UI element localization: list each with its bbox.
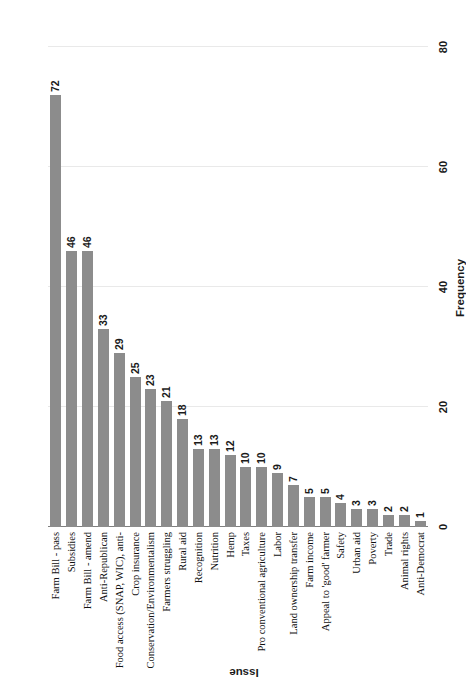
- category-tick-label: Anti-Republican: [98, 532, 109, 602]
- category-tick-label: Appeal to 'good' farmer: [320, 532, 331, 631]
- bar-value-label: 33: [98, 314, 109, 326]
- bar-value-label: 3: [367, 500, 378, 506]
- category-tick-label: Hemp: [225, 532, 236, 558]
- bar-value-label: 23: [145, 374, 156, 386]
- bar: [225, 455, 236, 527]
- bar-value-label: 25: [130, 362, 141, 374]
- bar: [50, 95, 61, 527]
- bar: [415, 521, 426, 527]
- category-tick-label: Farm Bill - pass: [50, 532, 61, 599]
- bar-value-label: 5: [320, 488, 331, 494]
- value-tick-label: 80: [437, 41, 449, 53]
- category-tick-label: Farm income: [304, 532, 315, 588]
- category-tick-label: Recognition: [193, 532, 204, 583]
- category-tick-label: Animal rights: [399, 532, 410, 590]
- category-tick-label: Anti-Democrat: [415, 532, 426, 596]
- bar: [351, 509, 362, 527]
- bar-item: 13: [193, 434, 204, 527]
- category-tick-label: Food access (SNAP, WIC), anti-: [114, 532, 125, 668]
- bar-item: 18: [177, 404, 188, 527]
- category-tick-label: Urban aid: [351, 532, 362, 574]
- bar-item: 21: [161, 386, 172, 527]
- bar-value-label: 18: [177, 404, 188, 416]
- value-tick-label: 40: [437, 281, 449, 293]
- category-tick-label: Crop insurance: [130, 532, 141, 596]
- bar-item: 1: [415, 512, 426, 527]
- bar-item: 13: [209, 434, 220, 527]
- bar-item: 9: [272, 464, 283, 527]
- bar-item: 46: [82, 236, 93, 527]
- bar-value-label: 46: [82, 236, 93, 248]
- category-tick-label: Rural aid: [177, 532, 188, 571]
- bar-item: 5: [304, 488, 315, 527]
- bar: [66, 251, 77, 527]
- category-tick-label: Trade: [383, 532, 394, 556]
- bar-item: 2: [383, 506, 394, 527]
- bar-value-label: 2: [383, 506, 394, 512]
- bar-value-label: 46: [66, 236, 77, 248]
- bar: [161, 401, 172, 527]
- bar: [145, 389, 156, 527]
- bar-item: 12: [225, 440, 236, 527]
- bar-value-label: 21: [161, 386, 172, 398]
- bar: [256, 467, 267, 527]
- bar-value-label: 10: [240, 452, 251, 464]
- bar: [383, 515, 394, 527]
- category-tick-label: Poverty: [367, 532, 378, 565]
- bar-value-label: 9: [272, 464, 283, 470]
- bar-value-label: 7: [288, 476, 299, 482]
- bar: [399, 515, 410, 527]
- bar-item: 5: [320, 488, 331, 527]
- value-tick-label: 60: [437, 161, 449, 173]
- gridline: [48, 46, 428, 47]
- bar: [335, 503, 346, 527]
- bar-item: 3: [351, 500, 362, 527]
- bar: [177, 419, 188, 527]
- bar: [193, 449, 204, 527]
- bar-value-label: 3: [351, 500, 362, 506]
- bar-item: 10: [256, 452, 267, 527]
- bar: [272, 473, 283, 527]
- bar-item: 4: [335, 494, 346, 527]
- bar-item: 33: [98, 314, 109, 527]
- category-tick-label: Land ownership transfer: [288, 532, 299, 635]
- category-tick-label: Subsidies: [66, 532, 77, 572]
- bar: [98, 329, 109, 527]
- gridline: [48, 166, 428, 167]
- gridline: [48, 286, 428, 287]
- bar-value-label: 13: [193, 434, 204, 446]
- bar-value-label: 2: [399, 506, 410, 512]
- bar: [367, 509, 378, 527]
- value-axis-title: Frequency: [454, 259, 466, 317]
- bar: [288, 485, 299, 527]
- bar: [320, 497, 331, 527]
- bar-value-label: 4: [335, 494, 346, 500]
- bar-item: 23: [145, 374, 156, 527]
- bar-item: 2: [399, 506, 410, 527]
- value-tick-label: 20: [437, 401, 449, 413]
- bar-item: 46: [66, 236, 77, 527]
- bar-item: 3: [367, 500, 378, 527]
- bar-value-label: 10: [256, 452, 267, 464]
- category-tick-label: Conservation/Environmentalism: [145, 532, 156, 668]
- category-axis-title: Issue: [229, 667, 258, 679]
- category-tick-label: Pro conventional agriculture: [256, 532, 267, 652]
- bar-item: 25: [130, 362, 141, 527]
- bar-value-label: 72: [50, 80, 61, 92]
- bar-value-label: 12: [225, 440, 236, 452]
- plot-area: 72464633292523211813131210109755433221: [48, 47, 428, 527]
- category-tick-label: Labor: [272, 532, 283, 557]
- bar-item: 10: [240, 452, 251, 527]
- bar: [209, 449, 220, 527]
- value-tick-label: 0: [437, 524, 449, 530]
- bar-item: 72: [50, 80, 61, 527]
- bar-value-label: 5: [304, 488, 315, 494]
- bar: [82, 251, 93, 527]
- bar-value-label: 29: [114, 338, 125, 350]
- category-tick-label: Safety: [335, 532, 346, 559]
- bar: [114, 353, 125, 527]
- bar-value-label: 1: [415, 512, 426, 518]
- category-tick-label: Farmers struggling: [161, 532, 172, 612]
